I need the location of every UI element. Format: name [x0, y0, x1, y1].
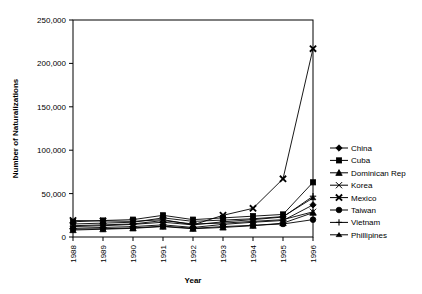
legend-label: Korea	[351, 181, 373, 190]
x-tick-label: 1996	[309, 244, 318, 262]
y-axis-title: Number of Naturalizations	[11, 78, 20, 178]
marker-circle	[310, 217, 316, 223]
x-tick-label: 1994	[249, 244, 258, 262]
y-tick-label: 150,000	[37, 103, 66, 112]
x-tick-label: 1993	[219, 244, 228, 262]
x-axis-title: Year	[185, 276, 202, 285]
marker-circle	[280, 221, 286, 227]
naturalizations-line-chart: 050,000100,000150,000200,000250,000 1988…	[0, 0, 422, 294]
y-tick-label: 250,000	[37, 16, 66, 25]
x-tick-label: 1989	[99, 244, 108, 262]
y-tick-label: 200,000	[37, 59, 66, 68]
x-tick-label: 1991	[159, 244, 168, 262]
legend-label: China	[351, 144, 372, 153]
x-tick-label: 1992	[189, 244, 198, 262]
marker-square	[336, 158, 341, 163]
x-tick-label: 1988	[69, 244, 78, 262]
legend-label: Cuba	[351, 156, 371, 165]
y-tick-label: 0	[62, 233, 67, 242]
y-tick-label: 50,000	[42, 190, 67, 199]
legend-label: Dominican Rep	[351, 169, 406, 178]
legend-label: Mexico	[351, 194, 377, 203]
x-tick-label: 1995	[279, 244, 288, 262]
marker-circle	[250, 222, 256, 228]
y-tick-label: 100,000	[37, 146, 66, 155]
x-tick-label: 1990	[129, 244, 138, 262]
marker-square	[310, 180, 315, 185]
legend-label: Phillipines	[351, 231, 387, 240]
legend-label: Taiwan	[351, 206, 376, 215]
marker-circle	[336, 207, 342, 213]
chart-container: 050,000100,000150,000200,000250,000 1988…	[0, 0, 422, 294]
legend-label: Vietnam	[351, 218, 381, 227]
